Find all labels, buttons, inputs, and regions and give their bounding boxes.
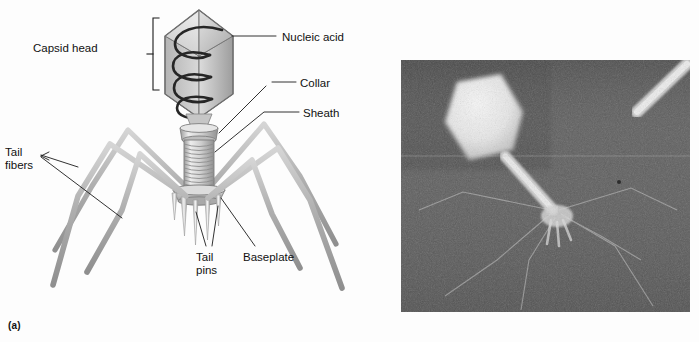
leader-tail-pins-2	[212, 206, 218, 246]
phage-structure-figure: Capsid head Nucleic acid Collar Sheath T…	[0, 0, 699, 342]
panel-a-diagram: Capsid head Nucleic acid Collar Sheath T…	[0, 0, 390, 342]
micrograph-frame	[401, 60, 690, 312]
label-sheath: Sheath	[303, 107, 339, 120]
capsid-head-bracket	[147, 18, 159, 90]
tail-pin	[205, 199, 210, 240]
tail-pin	[216, 195, 221, 226]
leader-baseplate	[221, 198, 255, 246]
leader-tail-pins-1	[196, 212, 206, 246]
sheath	[184, 140, 214, 191]
tail-pin	[181, 197, 187, 236]
label-tail-pins: Tail pins	[196, 251, 217, 277]
label-tail-fibers: Tail fibers	[5, 146, 33, 172]
micrograph-speck	[617, 180, 621, 184]
label-collar: Collar	[300, 77, 330, 90]
label-capsid-head: Capsid head	[33, 42, 98, 55]
tail-pin	[172, 193, 177, 220]
panel-a-caption: (a)	[8, 320, 21, 331]
label-nucleic-acid: Nucleic acid	[282, 31, 344, 44]
micrograph-grain-soft	[401, 60, 690, 312]
electron-micrograph	[401, 60, 690, 312]
tail-pin	[193, 200, 198, 245]
label-baseplate: Baseplate	[243, 251, 294, 264]
collar-top-rim	[180, 124, 218, 133]
panel-b-micrograph: (b)	[390, 0, 699, 342]
